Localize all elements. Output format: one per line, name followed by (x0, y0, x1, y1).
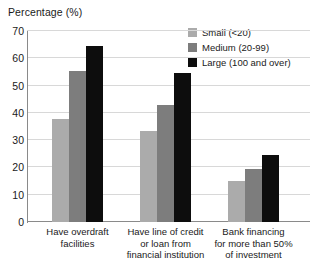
bar-group (228, 31, 279, 222)
x-axis-category-label: Bank financingfor more than 50%of invest… (202, 226, 306, 261)
y-axis-tick-label: 30 (12, 135, 24, 146)
y-axis-tick-label: 50 (12, 80, 24, 91)
y-axis-tick-labels: 010203040506070 (0, 31, 24, 222)
y-axis-tick-label: 0 (18, 217, 24, 228)
y-axis-tick-label: 40 (12, 107, 24, 118)
x-axis-category-labels: Have overdraftfacilitiesHave line of cre… (27, 226, 310, 274)
bars-layer (27, 31, 310, 222)
x-axis-category-label-line: Have overdraft (28, 226, 128, 238)
x-axis-category-label-line: Bank financing (202, 226, 306, 238)
bar[interactable] (140, 131, 157, 222)
chart-title: Percentage (%) (8, 6, 82, 18)
bar[interactable] (86, 46, 103, 222)
bar-group (52, 31, 103, 222)
x-axis-category-label: Have overdraftfacilities (28, 226, 128, 249)
bar[interactable] (174, 73, 191, 222)
x-axis-category-label-line: of investment (202, 249, 306, 261)
y-axis-tick-label: 70 (12, 26, 24, 37)
bar-group (140, 31, 191, 222)
bar[interactable] (262, 155, 279, 222)
y-axis-tick-label: 20 (12, 162, 24, 173)
bar[interactable] (69, 71, 86, 222)
y-axis-tick-label: 10 (12, 189, 24, 200)
x-axis-category-label-line: facilities (28, 238, 128, 250)
y-axis-tick-label: 60 (12, 53, 24, 64)
bar-chart: Percentage (%) Small (<20)Medium (20-99)… (0, 0, 312, 276)
x-axis-category-label-line: for more than 50% (202, 238, 306, 250)
bar[interactable] (157, 105, 174, 222)
bar[interactable] (52, 119, 69, 222)
bar[interactable] (228, 181, 245, 222)
bar[interactable] (245, 169, 262, 222)
